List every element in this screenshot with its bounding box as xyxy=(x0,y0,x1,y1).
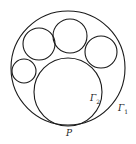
label-gamma2: Γ2 xyxy=(90,94,100,105)
circle-small-top xyxy=(53,19,87,53)
circle-gamma2 xyxy=(34,58,102,126)
circle-small-upper-left xyxy=(23,28,55,60)
circle-gamma1 xyxy=(11,11,125,125)
label-point-p: P xyxy=(66,129,72,138)
circle-small-right xyxy=(85,36,117,68)
circle-small-left xyxy=(12,59,36,83)
tangent-circles-figure xyxy=(0,0,136,144)
label-gamma1: Γ1 xyxy=(118,104,128,115)
